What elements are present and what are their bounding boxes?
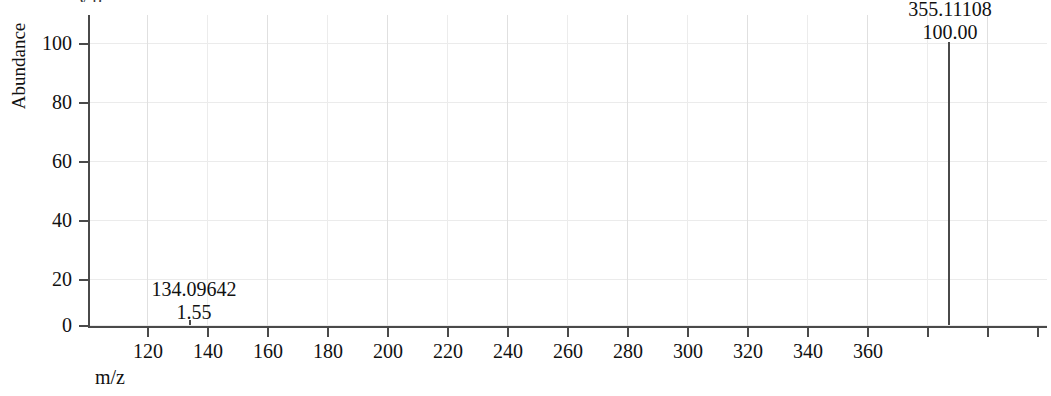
x-axis-tick (327, 328, 329, 337)
gridline-vertical (447, 15, 448, 326)
y-axis-line (88, 15, 90, 327)
gridline-vertical (687, 15, 688, 326)
spectrum-peak (948, 42, 950, 325)
x-axis-tick (867, 328, 869, 337)
x-axis-tick-label: 140 (178, 340, 238, 362)
peak-intensity-value: 1.55 (99, 301, 289, 324)
x-axis-tick (1037, 328, 1039, 337)
x-axis-tick (147, 328, 149, 337)
peak-label-355: 355.11108 100.00 (855, 0, 1045, 44)
y-axis-tick (79, 220, 88, 222)
gridline-vertical (507, 15, 508, 326)
y-axis-tick-label: 20 (26, 269, 72, 289)
x-axis-tick (927, 328, 929, 337)
x-axis-tick-label: 160 (238, 340, 298, 362)
peak-mz-value: 134.09642 (99, 278, 289, 301)
y-axis-tick-label: 0 (26, 315, 72, 335)
gridline-vertical (567, 15, 568, 326)
x-axis-tick (747, 328, 749, 337)
x-axis-tick (207, 328, 209, 337)
x-axis-tick-label: 320 (718, 340, 778, 362)
y-axis-tick-label: 60 (26, 151, 72, 171)
x-axis-tick (507, 328, 509, 337)
x-axis-tick (387, 328, 389, 337)
gridline-vertical (867, 15, 868, 326)
y-axis-tick (79, 43, 88, 45)
y-axis-tick-label: 80 (26, 92, 72, 112)
y-axis-title: Abundance (8, 11, 30, 121)
x-axis-tick (987, 328, 989, 337)
x-axis-tick-label: 240 (478, 340, 538, 362)
y-axis-tick-label: 40 (26, 210, 72, 230)
x-axis-tick (807, 328, 809, 337)
x-axis-tick (627, 328, 629, 337)
clipped-figure-title: y p (78, 0, 318, 2)
y-axis-tick-label: 100 (26, 33, 72, 53)
gridline-vertical (807, 15, 808, 326)
y-axis-tick (79, 102, 88, 104)
y-axis-tick (79, 325, 88, 327)
x-axis-tick-label: 180 (298, 340, 358, 362)
y-axis-tick (79, 279, 88, 281)
x-axis-tick-label: 260 (538, 340, 598, 362)
gridline-vertical (927, 15, 928, 326)
x-axis-tick (447, 328, 449, 337)
y-axis-tick (79, 161, 88, 163)
x-axis-tick (267, 328, 269, 337)
gridline-vertical (747, 15, 748, 326)
x-axis-tick-label: 120 (118, 340, 178, 362)
x-axis-tick-label: 280 (598, 340, 658, 362)
peak-mz-value: 355.11108 (855, 0, 1045, 21)
x-axis-title: m/z (95, 366, 125, 389)
peak-intensity-value: 100.00 (855, 21, 1045, 44)
x-axis-tick-label: 340 (778, 340, 838, 362)
gridline-vertical (987, 15, 988, 326)
x-axis-tick-label: 200 (358, 340, 418, 362)
x-axis-tick (687, 328, 689, 337)
gridline-vertical (327, 15, 328, 326)
gridline-vertical (627, 15, 628, 326)
x-axis-tick-label: 360 (838, 340, 898, 362)
gridline-vertical (387, 15, 388, 326)
x-axis-tick-label: 300 (658, 340, 718, 362)
x-axis-tick-label: 220 (418, 340, 478, 362)
x-axis-tick (567, 328, 569, 337)
peak-label-134: 134.09642 1.55 (99, 278, 289, 324)
